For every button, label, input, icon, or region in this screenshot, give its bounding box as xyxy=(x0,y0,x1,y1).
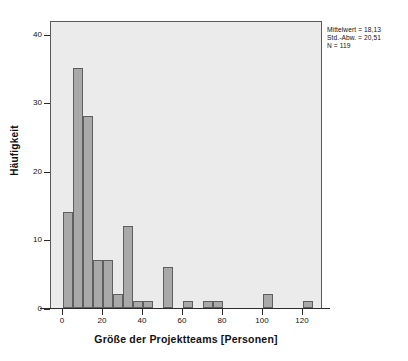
x-axis-tick-label: 40 xyxy=(138,316,147,325)
stat-mean: Mittelwert = 18,13 xyxy=(327,26,381,34)
histogram-bar xyxy=(63,212,73,308)
x-axis-tick-label: 80 xyxy=(218,316,227,325)
y-axis-title: Häufigkeit xyxy=(6,0,22,300)
x-axis-tick xyxy=(222,309,223,315)
stat-stddev: Std.-Abw. = 20,51 xyxy=(327,34,381,42)
histogram-bar xyxy=(123,226,133,308)
x-axis-tick xyxy=(182,309,183,315)
histogram-bar xyxy=(133,301,143,308)
x-axis-tick xyxy=(102,309,103,315)
x-axis-tick xyxy=(262,309,263,315)
histogram-bar xyxy=(143,301,153,308)
y-axis-tick-label: 20 xyxy=(22,167,42,176)
x-axis-tick xyxy=(142,309,143,315)
y-axis-title-label: Häufigkeit xyxy=(9,125,20,175)
x-axis-tick-label: 120 xyxy=(295,316,308,325)
y-axis-tick xyxy=(44,309,50,310)
y-axis-tick-label: 30 xyxy=(22,98,42,107)
x-axis-tick xyxy=(62,309,63,315)
histogram-bar xyxy=(263,294,273,308)
x-axis-tick-label: 20 xyxy=(98,316,107,325)
histogram-bar xyxy=(183,301,193,308)
y-axis-tick-label: 40 xyxy=(22,30,42,39)
histogram-bar xyxy=(113,294,123,308)
statistics-annotation: Mittelwert = 18,13 Std.-Abw. = 20,51 N =… xyxy=(327,26,381,51)
plot-area xyxy=(50,21,322,309)
y-axis-tick-label: 10 xyxy=(22,235,42,244)
bars-layer xyxy=(51,22,321,308)
histogram-bar xyxy=(163,267,173,308)
histogram-bar xyxy=(93,260,103,308)
x-axis-title: Größe der Projektteams [Personen] xyxy=(50,333,322,345)
x-axis-tick-label: 0 xyxy=(60,316,64,325)
histogram-chart: Häufigkeit 010203040 020406080100120 Grö… xyxy=(0,0,408,361)
histogram-bar xyxy=(73,68,83,308)
x-axis-tick-label: 100 xyxy=(255,316,268,325)
histogram-bar xyxy=(213,301,223,308)
histogram-bar xyxy=(303,301,313,308)
histogram-bar xyxy=(83,116,93,308)
stat-n: N = 119 xyxy=(327,42,381,50)
histogram-bar xyxy=(103,260,113,308)
x-axis-line xyxy=(40,308,330,309)
y-axis-tick-label: 0 xyxy=(22,304,42,313)
x-axis-tick-label: 60 xyxy=(178,316,187,325)
histogram-bar xyxy=(203,301,213,308)
x-axis-tick xyxy=(302,309,303,315)
